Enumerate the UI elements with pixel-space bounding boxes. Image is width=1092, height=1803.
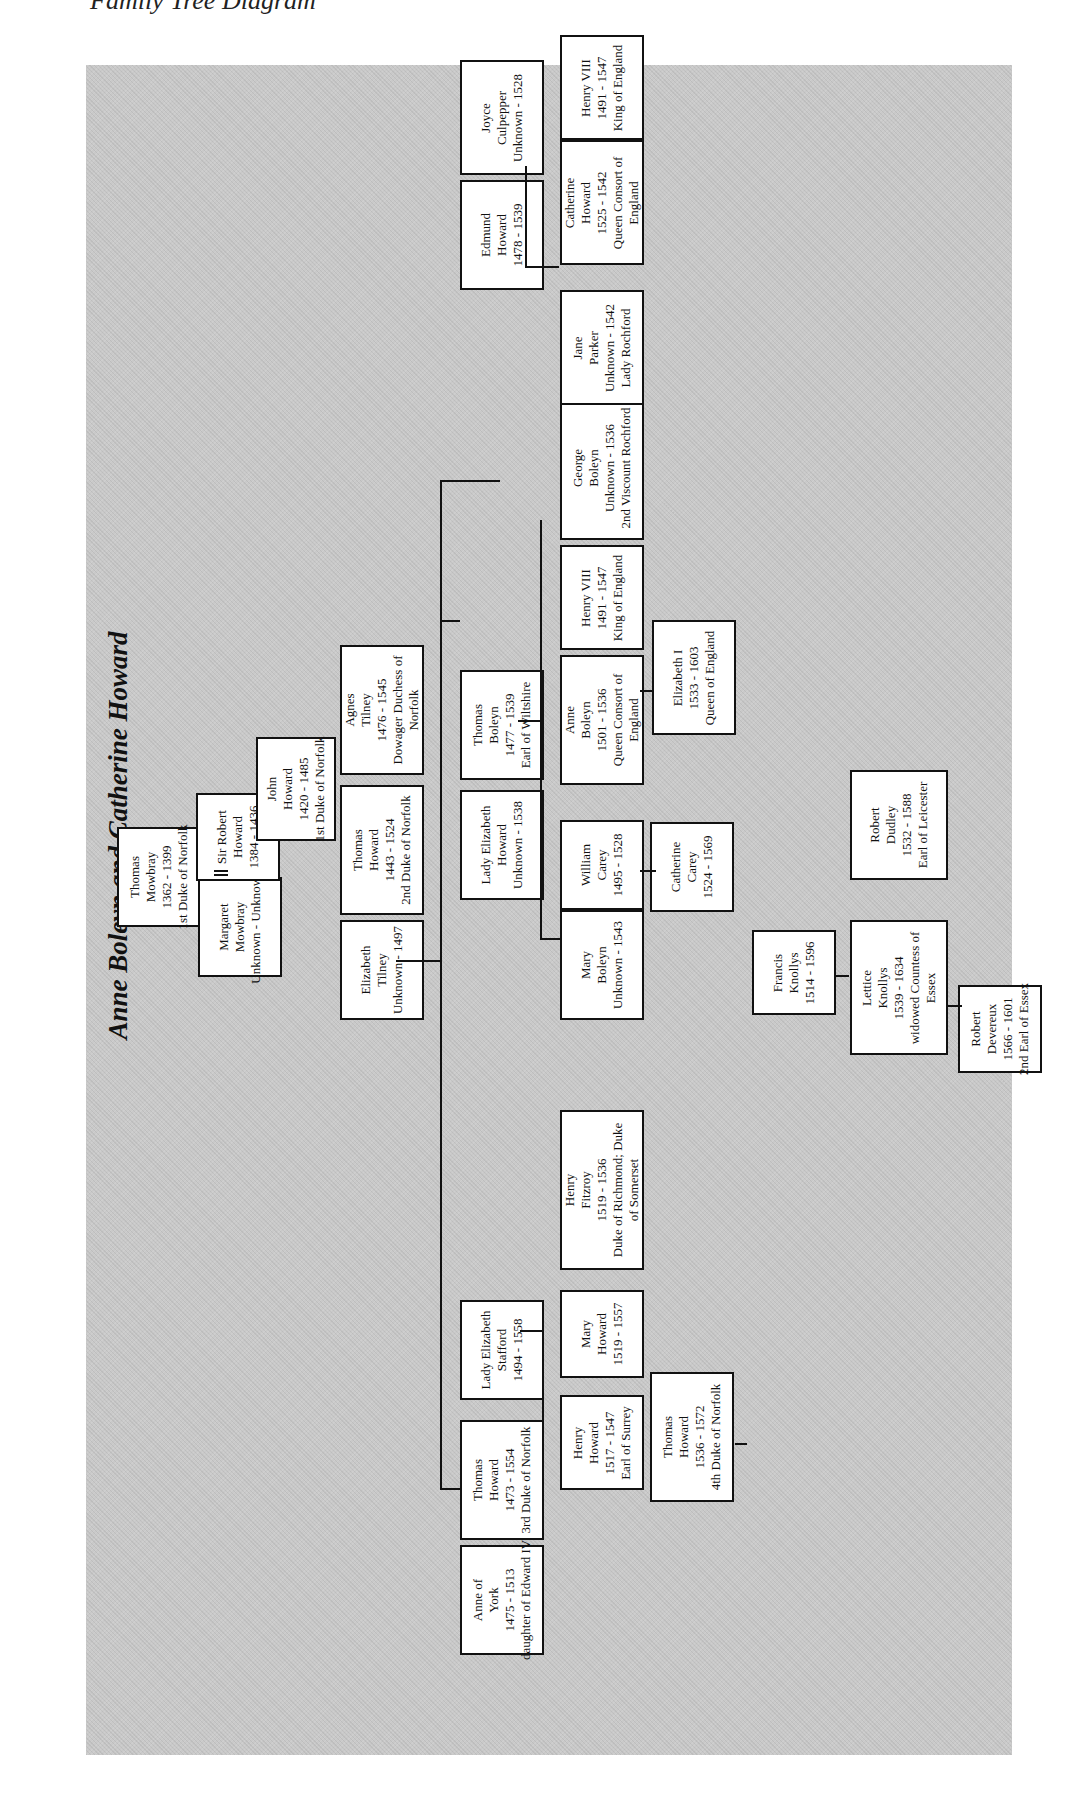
descent-line <box>440 480 442 1490</box>
person-box-lady-elizabeth-howard: Lady ElizabethHowardUnknown - 1538 <box>460 790 544 900</box>
person-line: Knollys <box>875 931 891 1044</box>
person-text: ThomasHoward1536 - 15724th Duke of Norfo… <box>660 1384 724 1491</box>
descent-line <box>835 975 849 977</box>
marriage-line <box>214 870 224 876</box>
descent-line <box>948 1005 962 1007</box>
person-line: Queen of England <box>702 630 718 725</box>
page-caption: Family Tree Diagram <box>90 0 316 16</box>
person-line: 1st Duke of Norfolk <box>312 736 328 841</box>
person-text: HenryHoward1517 - 1547Earl of Surrey <box>570 1406 634 1480</box>
person-box-henry-fitzroy: HenryFitzroy1519 - 1536Duke of Richmond;… <box>560 1110 644 1270</box>
person-text: MaryHoward1519 - 1557 <box>578 1303 626 1366</box>
descent-line <box>520 1330 542 1332</box>
person-line: Lady Rochford <box>618 303 634 391</box>
person-line: 1362 - 1399 <box>159 824 175 929</box>
person-text: FrancisKnollys1514 - 1596 <box>770 941 818 1004</box>
person-line: Earl of Leicester <box>915 782 931 869</box>
person-text: HenryFitzroy1519 - 1536Duke of Richmond;… <box>562 1123 642 1258</box>
person-line: Edmund <box>478 204 494 267</box>
descent-line <box>396 960 442 962</box>
person-line: England <box>626 674 642 766</box>
person-line: Unknown - 1536 <box>602 407 618 528</box>
person-line: 2nd Earl of Essex <box>1016 983 1032 1075</box>
person-line: Dudley <box>883 782 899 869</box>
person-line: George <box>570 407 586 528</box>
person-line: daughter of Edward IV <box>518 1540 534 1660</box>
person-line: 1532 - 1588 <box>899 782 915 869</box>
person-line: 4th Duke of Norfolk <box>708 1384 724 1491</box>
person-line: Parker <box>586 303 602 391</box>
person-line: Howard <box>578 156 594 248</box>
person-text: AnneBoleyn1501 - 1536Queen Consort ofEng… <box>562 674 642 766</box>
person-line: Mary <box>578 921 594 1009</box>
person-line: Anne of <box>470 1540 486 1660</box>
person-line: 1533 - 1603 <box>686 630 702 725</box>
person-line: Howard <box>586 1406 602 1480</box>
person-line: 2nd Duke of Norfolk <box>398 795 414 904</box>
person-text: Henry VIII1491 - 1547King of England <box>578 44 626 131</box>
person-line: Unknown - Unknown <box>248 870 264 983</box>
descent-line <box>440 1488 460 1490</box>
descent-line <box>640 690 652 692</box>
person-line: Mary <box>578 1303 594 1366</box>
person-box-henry-howard: HenryHoward1517 - 1547Earl of Surrey <box>560 1395 644 1490</box>
person-line: Sir Robert <box>214 806 230 869</box>
descent-line <box>525 266 559 268</box>
person-line: 1473 - 1554 <box>502 1426 518 1533</box>
person-line: 1566 - 1601 <box>1000 983 1016 1075</box>
person-box-lady-elizabeth-stafford: Lady ElizabethStafford1494 - 1558 <box>460 1300 544 1400</box>
person-line: Carey <box>594 834 610 897</box>
person-line: Agnes <box>342 655 358 764</box>
person-line: Catherine <box>668 836 684 899</box>
person-line: 1501 - 1536 <box>594 674 610 766</box>
person-line: Culpepper <box>494 73 510 161</box>
person-line: Unknown - 1542 <box>602 303 618 391</box>
person-line: Stafford <box>494 1310 510 1389</box>
person-line: Lettice <box>859 931 875 1044</box>
person-line: Thomas <box>470 1426 486 1533</box>
person-line: Knollys <box>786 941 802 1004</box>
person-line: Howard <box>594 1303 610 1366</box>
person-text: Sir RobertHoward1384 - 1436 <box>214 806 262 869</box>
person-line: England <box>626 156 642 248</box>
person-line: Howard <box>366 795 382 904</box>
person-line: Catherine <box>562 156 578 248</box>
person-line: Howard <box>230 806 246 869</box>
person-line: Robert <box>867 782 883 869</box>
person-line: 1443 - 1524 <box>382 795 398 904</box>
person-line: York <box>486 1540 502 1660</box>
person-box-anne-boleyn: AnneBoleyn1501 - 1536Queen Consort ofEng… <box>560 655 644 785</box>
person-line: 1475 - 1513 <box>502 1540 518 1660</box>
person-text: ThomasBoleyn1477 - 1539Earl of Wiltshire <box>470 682 534 769</box>
person-line: 3rd Duke of Norfolk <box>518 1426 534 1533</box>
person-text: Lady ElizabethStafford1494 - 1558 <box>478 1310 526 1389</box>
person-line: Dowager Duchess of <box>390 655 406 764</box>
person-line: Thomas <box>660 1384 676 1491</box>
person-line: William <box>578 834 594 897</box>
person-text: AgnesTilney1476 - 1545Dowager Duchess of… <box>342 655 422 764</box>
person-text: RobertDevereux1566 - 16012nd Earl of Ess… <box>968 983 1032 1075</box>
descent-line <box>540 520 542 940</box>
person-text: Elizabeth I1533 - 1603Queen of England <box>670 630 718 725</box>
person-line: Essex <box>923 931 939 1044</box>
person-line: 1477 - 1539 <box>502 682 518 769</box>
person-line: Devereux <box>984 983 1000 1075</box>
person-box-henry-viii-a: Henry VIII1491 - 1547King of England <box>560 545 644 650</box>
person-line: Howard <box>494 204 510 267</box>
person-text: Anne ofYork1475 - 1513daughter of Edward… <box>470 1540 534 1660</box>
person-line: Unknown - 1538 <box>510 801 526 889</box>
person-line: Anne <box>562 674 578 766</box>
person-box-robert-dudley: RobertDudley1532 - 1588Earl of Leicester <box>850 770 948 880</box>
person-line: 2nd Viscount Rochford <box>618 407 634 528</box>
person-line: 1478 - 1539 <box>510 204 526 267</box>
person-box-edmund-howard: EdmundHoward1478 - 1539 <box>460 180 544 290</box>
person-line: Fitzroy <box>578 1123 594 1258</box>
descent-line <box>440 620 460 622</box>
person-line: Howard <box>494 801 510 889</box>
person-text: ThomasMowbray1362 - 13991st Duke of Norf… <box>127 824 191 929</box>
person-box-thomas-howard-4th: ThomasHoward1536 - 15724th Duke of Norfo… <box>650 1372 734 1502</box>
person-line: Joyce <box>478 73 494 161</box>
person-text: ThomasHoward1473 - 15543rd Duke of Norfo… <box>470 1426 534 1533</box>
person-text: WilliamCarey1495 - 1528 <box>578 834 626 897</box>
person-line: 1519 - 1536 <box>594 1123 610 1258</box>
